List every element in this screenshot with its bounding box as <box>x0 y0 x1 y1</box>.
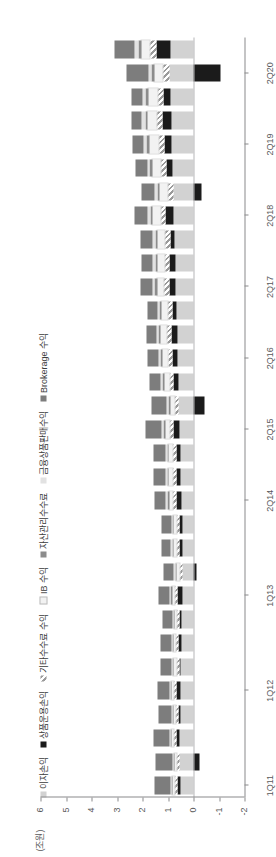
bar-segment-trading <box>179 658 181 676</box>
category-tick-mark <box>245 499 249 500</box>
category-tick-mark <box>245 285 249 286</box>
bar-segment-interest <box>179 729 193 747</box>
bar-segment-interest <box>180 776 193 794</box>
bar-segment-interest <box>180 444 193 462</box>
bar-segment-interest <box>180 681 193 699</box>
bar-group <box>31 373 245 391</box>
bar-segment-wm <box>160 301 162 319</box>
bar-segment-brokerage <box>154 468 166 486</box>
y-tick-mark <box>117 797 118 801</box>
bar-segment-wm <box>155 278 157 296</box>
bar-segment-other_fee <box>158 88 164 106</box>
bar-segment-ib <box>152 159 160 177</box>
bar-group <box>31 610 245 628</box>
bar-segment-other_fee <box>149 40 156 58</box>
bar-segment-ib <box>173 634 176 652</box>
bar-segment-other_fee <box>170 420 174 438</box>
bar-segment-brokerage <box>158 586 169 604</box>
bar-segment-interest <box>179 420 193 438</box>
bar-segment-ib <box>169 444 173 462</box>
bar-group <box>31 230 245 248</box>
bar-segment-ib <box>174 610 177 628</box>
bar-segment-trading <box>179 705 181 723</box>
bar-segment-other_fee <box>161 159 167 177</box>
bar-segment-product_sales <box>172 658 173 676</box>
bar-segment-trading <box>166 206 174 224</box>
bar-segment-trading <box>174 420 180 438</box>
category-tick-mark <box>245 143 249 144</box>
bar-segment-product_sales <box>160 373 162 391</box>
bar-segment-other_fee <box>175 396 179 414</box>
bar-segment-brokerage <box>131 88 142 106</box>
bar-segment-interest <box>177 325 193 343</box>
bar-group <box>31 705 245 723</box>
bar-segment-trading <box>176 468 181 486</box>
bar-segment-trading <box>169 278 176 296</box>
bar-segment-interest <box>175 230 194 248</box>
bar-segment-ib <box>169 491 173 509</box>
bar-group <box>31 658 245 676</box>
bar-segment-interest <box>182 539 193 557</box>
y-tick-label: 0 <box>188 807 198 812</box>
bar-group <box>31 135 245 153</box>
bar-segment-ib <box>173 776 175 794</box>
bar-segment-ib <box>171 681 173 699</box>
bar-group <box>31 776 245 794</box>
bar-segment-other_fee <box>177 515 180 533</box>
bar-segment-brokerage <box>161 539 171 557</box>
bar-segment-ib <box>169 468 173 486</box>
bar-segment-brokerage <box>154 729 169 747</box>
bar-segment-interest <box>173 183 193 201</box>
bar-segment-interest <box>176 278 194 296</box>
bar-segment-trading <box>176 729 179 747</box>
bar-segment-wm <box>171 586 172 604</box>
category-tick-mark <box>245 72 249 73</box>
bar-segment-brokerage <box>142 183 154 201</box>
bar-segment-brokerage <box>149 373 160 391</box>
category-tick-mark <box>245 357 249 358</box>
y-tick-label: -1 <box>213 807 223 815</box>
bar-segment-brokerage <box>147 349 158 367</box>
bar-group <box>31 753 245 771</box>
bar-group <box>31 681 245 699</box>
bar-segment-interest <box>171 88 194 106</box>
bar-group <box>31 254 245 272</box>
bar-segment-wm <box>163 420 165 438</box>
bar-segment-trading <box>179 634 182 652</box>
bar-segment-interest <box>170 40 193 58</box>
bar-segment-ib <box>176 563 179 581</box>
bar-segment-trading <box>180 515 182 533</box>
bar-segment-interest <box>181 634 193 652</box>
bar-series-layer <box>31 0 245 857</box>
y-tick-mark <box>194 797 195 801</box>
bar-group <box>31 88 245 106</box>
y-tick-mark <box>245 797 246 801</box>
bar-segment-wm <box>155 254 157 272</box>
bar-segment-product_sales <box>147 206 150 224</box>
bar-group <box>31 491 245 509</box>
category-tick-mark <box>245 594 249 595</box>
bar-segment-other_fee <box>173 444 177 462</box>
bar-segment-brokerage <box>162 610 172 628</box>
bar-segment-wm <box>173 610 174 628</box>
bar-segment-ib <box>158 230 165 248</box>
bar-segment-product_sales <box>158 349 160 367</box>
bar-segment-wm <box>150 206 153 224</box>
bar-segment-interest <box>182 515 193 533</box>
bar-segment-brokerage <box>141 230 153 248</box>
bar-segment-wm <box>173 705 174 723</box>
bar-segment-interest <box>174 206 194 224</box>
bar-segment-other_fee <box>176 658 179 676</box>
bar-segment-brokerage <box>146 325 156 343</box>
bar-segment-ib <box>148 88 157 106</box>
bar-segment-brokerage <box>151 396 166 414</box>
bar-segment-other_fee <box>160 206 166 224</box>
bar-segment-ib <box>141 40 149 58</box>
bar-segment-trading <box>174 373 179 391</box>
bar-group <box>31 278 245 296</box>
bar-segment-other_fee <box>177 610 180 628</box>
bar-segment-product_sales <box>171 539 173 557</box>
bar-segment-brokerage <box>157 681 169 699</box>
bar-segment-other_fee <box>164 254 169 272</box>
bar-segment-wm <box>172 539 173 557</box>
